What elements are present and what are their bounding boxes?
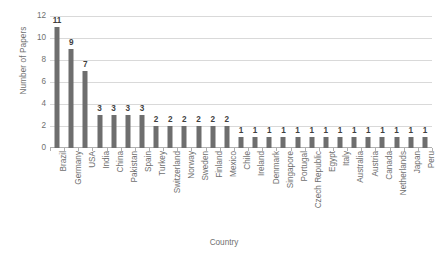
bar-slot: 1 <box>418 16 432 148</box>
x-axis-category-labels: BrazilGermanyUSAIndiaChinaPakistanSpainT… <box>50 151 432 231</box>
bar-slot: 1 <box>234 16 248 148</box>
bar[interactable] <box>168 126 173 148</box>
bar[interactable] <box>408 137 413 148</box>
y-axis-tick-label: 12 <box>24 12 46 20</box>
bar[interactable] <box>281 137 286 148</box>
bar-value-label: 1 <box>352 127 357 135</box>
bars-layer: 1197333322222211111111111111 <box>50 16 432 148</box>
bar-slot: 2 <box>149 16 163 148</box>
bar[interactable] <box>253 137 258 148</box>
bar-slot: 3 <box>107 16 121 148</box>
bar[interactable] <box>224 126 229 148</box>
bar[interactable] <box>338 137 343 148</box>
bar-slot: 2 <box>177 16 191 148</box>
x-axis-category-label: Italy <box>343 151 351 166</box>
bar-value-label: 3 <box>111 105 116 113</box>
bar[interactable] <box>55 27 60 148</box>
bar-value-label: 2 <box>182 116 187 124</box>
y-axis-tick-label: 10 <box>24 34 46 42</box>
bar-value-label: 1 <box>295 127 300 135</box>
bar-slot: 1 <box>276 16 290 148</box>
bar[interactable] <box>295 137 300 148</box>
bar[interactable] <box>139 115 144 148</box>
x-axis-category-label: Ireland <box>258 151 266 176</box>
bar-slot: 3 <box>121 16 135 148</box>
bar-slot: 1 <box>319 16 333 148</box>
bar-value-label: 9 <box>69 39 74 47</box>
bar[interactable] <box>182 126 187 148</box>
bar-value-label: 1 <box>380 127 385 135</box>
bar-value-label: 1 <box>253 127 258 135</box>
bar-slot: 2 <box>191 16 205 148</box>
bar-value-label: 3 <box>97 105 102 113</box>
x-axis-category-label: Sweden <box>202 151 210 181</box>
bar-value-label: 3 <box>126 105 131 113</box>
x-axis-category-label: Norway <box>188 151 196 179</box>
bar[interactable] <box>380 137 385 148</box>
bar[interactable] <box>267 137 272 148</box>
bar[interactable] <box>154 126 159 148</box>
bar-slot: 3 <box>135 16 149 148</box>
bar[interactable] <box>196 126 201 148</box>
y-axis-tick-label: 6 <box>24 78 46 86</box>
bar[interactable] <box>125 115 130 148</box>
x-axis-category-label: Portugal <box>301 151 309 182</box>
bar-slot: 1 <box>248 16 262 148</box>
plot-area: 1197333322222211111111111111 <box>50 16 432 148</box>
bar[interactable] <box>83 71 88 148</box>
bar[interactable] <box>97 115 102 148</box>
bar[interactable] <box>323 137 328 148</box>
bar[interactable] <box>210 126 215 148</box>
x-axis-category-label: Singapore <box>287 151 295 188</box>
x-axis-category-label: Austria <box>372 151 380 176</box>
bar-value-label: 1 <box>281 127 286 135</box>
y-axis-tick-labels: 024681012 <box>24 16 46 148</box>
bar-slot: 1 <box>390 16 404 148</box>
x-axis-category-label: Canada <box>386 151 394 180</box>
bar-value-label: 1 <box>366 127 371 135</box>
bar[interactable] <box>422 137 427 148</box>
x-axis-category-label: Brazil <box>60 151 68 171</box>
x-axis-category-label: Finland <box>216 151 224 178</box>
bar-slot: 1 <box>361 16 375 148</box>
bar[interactable] <box>111 115 116 148</box>
x-axis-category-label: Czech Republic <box>315 151 323 208</box>
x-axis-category-label: Peru <box>428 151 436 168</box>
x-axis-category-label: Spain <box>145 151 153 172</box>
bar-value-label: 2 <box>196 116 201 124</box>
x-axis-category-label: Japan <box>414 151 422 173</box>
x-axis-category-label: Netherlands <box>400 151 408 195</box>
bar[interactable] <box>309 137 314 148</box>
bar-slot: 2 <box>163 16 177 148</box>
bar-value-label: 1 <box>394 127 399 135</box>
bar-value-label: 1 <box>239 127 244 135</box>
bar[interactable] <box>69 49 74 148</box>
bar-slot: 1 <box>262 16 276 148</box>
bar[interactable] <box>394 137 399 148</box>
bar-value-label: 2 <box>154 116 159 124</box>
x-axis-category-label: Egypt <box>329 151 337 172</box>
y-axis-tick-label: 8 <box>24 56 46 64</box>
x-axis-category-label: China <box>117 151 125 172</box>
bar-slot: 3 <box>92 16 106 148</box>
bar-slot: 1 <box>305 16 319 148</box>
bar[interactable] <box>366 137 371 148</box>
x-axis-category-label: Mexico <box>230 151 238 177</box>
bar[interactable] <box>238 137 243 148</box>
x-axis-category-label: Turkey <box>159 151 167 176</box>
bar-slot: 1 <box>347 16 361 148</box>
y-axis-tick-label: 0 <box>24 144 46 152</box>
y-axis-tick-label: 4 <box>24 100 46 108</box>
x-axis-category-label: Germany <box>75 151 83 185</box>
bar-value-label: 1 <box>423 127 428 135</box>
bar-value-label: 2 <box>168 116 173 124</box>
bar-value-label: 1 <box>267 127 272 135</box>
x-axis-category-label: Switzerland <box>174 151 182 193</box>
bar-slot: 1 <box>404 16 418 148</box>
bar[interactable] <box>352 137 357 148</box>
x-axis-category-label: USA <box>89 151 97 168</box>
bar-value-label: 1 <box>338 127 343 135</box>
x-axis-title: Country <box>0 238 448 247</box>
bar-slot: 1 <box>375 16 389 148</box>
x-axis-category-label: Chile <box>244 151 252 170</box>
